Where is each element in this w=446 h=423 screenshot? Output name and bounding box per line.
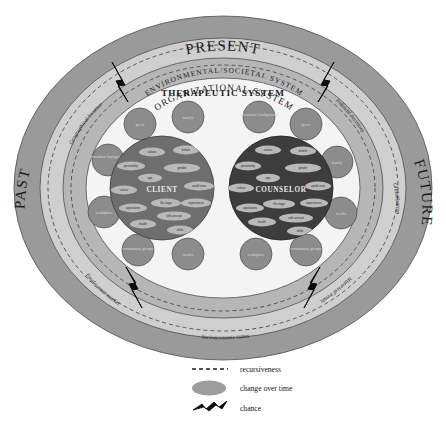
- node-label: peers: [302, 122, 311, 127]
- counselor-label: COUNSELOR: [256, 186, 307, 194]
- node-label: media: [183, 252, 193, 257]
- attr-oval: beliefs: [290, 147, 316, 156]
- attr-oval: self-concept: [157, 211, 191, 220]
- svg-text:beliefs: beliefs: [299, 149, 308, 153]
- svg-text:personality: personality: [241, 164, 256, 168]
- svg-text:beliefs: beliefs: [182, 148, 191, 152]
- figure-canvas: PRESENT ENVIRONMENTAL/SOCIETAL SYSTEM OR…: [0, 0, 446, 423]
- svg-text:age: age: [148, 176, 153, 180]
- svg-text:gender: gender: [177, 166, 186, 170]
- svg-text:aspirations: aspirations: [126, 206, 141, 210]
- svg-text:skills: skills: [177, 228, 184, 232]
- svg-text:age: age: [266, 176, 271, 180]
- system-therapeutic-label: THERAPEUTIC SYSTEM: [161, 88, 285, 98]
- svg-text:values: values: [148, 150, 157, 154]
- node-counselor-community-groups: community groups: [290, 234, 322, 266]
- svg-text:life stage: life stage: [160, 201, 172, 205]
- attr-oval: age: [256, 174, 280, 182]
- svg-text:health: health: [139, 222, 147, 226]
- legend-item-chance: chance: [193, 401, 262, 413]
- svg-text:experiences: experiences: [188, 201, 204, 205]
- svg-text:health: health: [258, 220, 266, 224]
- svg-text:values: values: [264, 148, 273, 152]
- node-label: community groups: [123, 246, 154, 251]
- legend-label: chance: [240, 404, 262, 413]
- svg-text:experiences: experiences: [306, 201, 322, 205]
- attr-oval: life stage: [151, 199, 181, 208]
- node-client-family: family: [172, 101, 204, 133]
- attr-oval: values: [139, 148, 165, 157]
- legend-item-recursiveness: recursiveness: [192, 365, 281, 374]
- svg-text:gender: gender: [298, 166, 307, 170]
- svg-text:culture: culture: [120, 188, 129, 192]
- attr-oval: world view: [305, 182, 331, 191]
- node-counselor-workplace: workplace: [240, 238, 272, 270]
- attr-oval: self-concept: [279, 213, 313, 222]
- svg-text:life stage: life stage: [273, 202, 285, 206]
- node-label: workplace: [247, 252, 264, 257]
- attr-oval: personality: [117, 162, 145, 171]
- attr-oval: aspirations: [119, 204, 147, 213]
- svg-text:world view: world view: [192, 184, 206, 188]
- attr-oval: life stage: [263, 199, 295, 208]
- counselor-core: values beliefs personality gender age cu…: [228, 136, 333, 240]
- attr-oval: experiences: [181, 199, 211, 208]
- svg-text:skills: skills: [297, 229, 304, 233]
- node-client-peers: peers: [124, 108, 156, 140]
- attr-oval: culture: [228, 184, 254, 193]
- attr-oval: values: [255, 146, 281, 155]
- zigzag-icon: [193, 401, 227, 411]
- attr-oval: health: [248, 218, 276, 227]
- node-label: media: [336, 211, 346, 216]
- legend: recursiveness change over time chance: [192, 365, 293, 413]
- node-label: workplace: [95, 210, 112, 215]
- legend-item-change-over-time: change over time: [192, 381, 293, 396]
- svg-text:self-concept: self-concept: [288, 216, 304, 220]
- svg-text:world view: world view: [311, 184, 325, 188]
- attr-oval: gender: [164, 163, 200, 172]
- legend-label: change over time: [240, 384, 293, 393]
- svg-text:self-concept: self-concept: [166, 214, 182, 218]
- attr-oval: personality: [235, 162, 261, 171]
- ecological-systems-diagram: PRESENT ENVIRONMENTAL/SOCIETAL SYSTEM OR…: [0, 0, 446, 423]
- attr-oval: aspirations: [236, 204, 264, 213]
- attr-oval: health: [130, 220, 156, 229]
- svg-text:culture: culture: [237, 186, 246, 190]
- svg-text:aspirations: aspirations: [243, 206, 258, 210]
- client-core: values beliefs personality gender age cu…: [110, 136, 214, 240]
- node-label: family: [332, 160, 344, 165]
- legend-label: recursiveness: [240, 365, 281, 374]
- node-label: community groups: [291, 246, 322, 251]
- attr-oval: world view: [184, 182, 214, 191]
- node-client-media: media: [172, 238, 204, 270]
- attr-oval: gender: [285, 163, 321, 172]
- client-label: CLIENT: [146, 186, 177, 194]
- attr-oval: experiences: [300, 199, 328, 208]
- node-label: family: [183, 115, 195, 120]
- svg-text:personality: personality: [124, 164, 139, 168]
- node-label: education/ background: [240, 112, 277, 117]
- ellipse-icon: [192, 381, 226, 396]
- node-counselor-peers: peers: [290, 108, 322, 140]
- attr-oval: age: [138, 174, 162, 182]
- node-label: peers: [136, 122, 145, 127]
- attr-oval: culture: [111, 186, 137, 195]
